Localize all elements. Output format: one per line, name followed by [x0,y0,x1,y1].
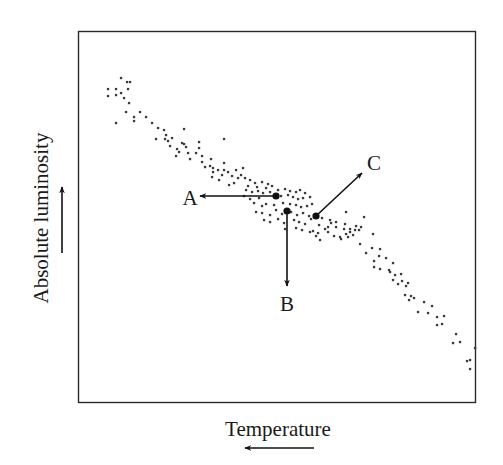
data-point [217,169,219,171]
data-point [231,175,233,177]
data-point [169,145,171,147]
scatter-points [107,77,476,370]
data-point [218,179,220,181]
data-point [125,111,127,113]
data-point [265,187,267,189]
data-point [228,184,230,186]
data-point [151,122,153,124]
data-point [237,177,239,179]
data-point [372,233,374,235]
data-point [304,223,306,225]
data-point [413,297,415,299]
data-point [339,236,341,238]
data-point [410,295,412,297]
marked-star-a [272,192,279,199]
data-point [280,195,282,197]
data-point [302,212,304,214]
data-point [176,148,178,150]
data-point [400,273,402,275]
data-point [120,77,122,79]
data-point [123,97,125,99]
data-point [223,138,225,140]
data-point [275,209,277,211]
data-point [128,102,130,104]
data-point [273,204,275,206]
data-point [397,283,399,285]
data-point [441,323,443,325]
data-point [436,324,438,326]
data-point [120,92,122,94]
data-point [284,228,286,230]
data-point [299,189,301,191]
data-point [349,231,351,233]
data-point [221,174,223,176]
data-point [289,190,291,192]
data-point [269,191,271,193]
data-point [321,217,323,219]
data-point [167,140,169,142]
data-point [373,266,375,268]
data-point [459,341,461,343]
data-point [277,189,279,191]
data-point [251,191,253,193]
data-point [269,214,271,216]
data-point [233,182,235,184]
data-point [404,294,406,296]
data-point [267,183,269,185]
data-point [297,198,299,200]
data-point [183,128,185,130]
data-point [333,235,335,237]
plot-frame [79,32,476,403]
data-point [245,189,247,191]
data-point [335,221,337,223]
data-point [392,262,394,264]
data-point [324,228,326,230]
data-point [296,214,298,216]
data-point [343,228,345,230]
marked-star-c [312,212,319,219]
data-point [201,161,203,163]
data-point [373,260,375,262]
data-point [223,169,225,171]
data-point [327,226,329,228]
data-point [443,315,445,317]
data-point [317,232,319,234]
data-point [306,205,308,207]
data-point [474,347,476,349]
data-point [107,95,109,97]
data-point [359,243,361,245]
data-point [315,235,317,237]
data-point [255,211,257,213]
data-point [247,185,249,187]
data-point [360,226,362,228]
hr-diagram-chart: ABC Temperature Absolute luminosity [0,0,503,465]
data-point [327,231,329,233]
data-point [212,171,214,173]
data-point [115,122,117,124]
data-point [181,142,183,144]
data-point [340,238,342,240]
data-point [282,202,284,204]
data-point [195,152,197,154]
data-point [281,213,283,215]
data-point [198,141,200,143]
data-point [345,233,347,235]
data-point [265,203,267,205]
data-point [262,192,264,194]
data-point [277,218,279,220]
data-point [392,279,394,281]
data-point [385,257,387,259]
data-point [295,227,297,229]
data-point [201,155,203,157]
data-point [329,219,331,221]
data-point [427,312,429,314]
data-point [129,81,131,83]
data-point [310,218,312,220]
data-point [185,146,187,148]
data-point [210,158,212,160]
data-point [204,166,206,168]
data-point [211,176,213,178]
data-point [312,230,314,232]
data-point [183,143,185,145]
data-point [254,182,256,184]
